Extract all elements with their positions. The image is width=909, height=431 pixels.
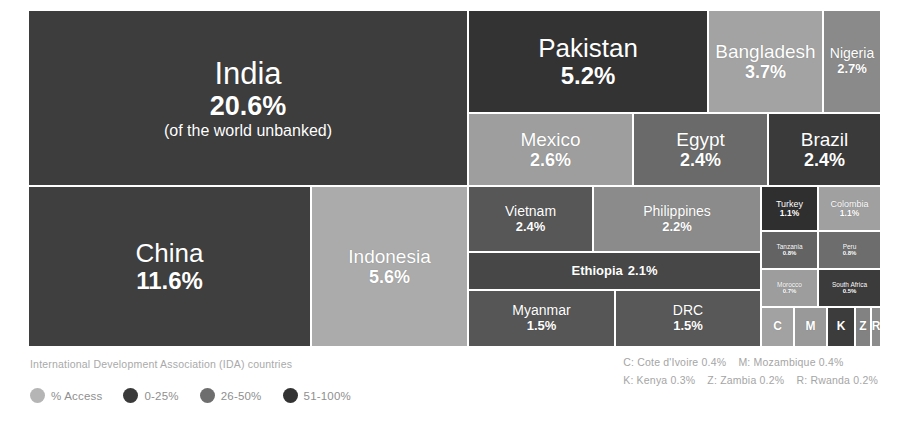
treemap-tile-india[interactable]: India 20.6% (of the world unbanked) (28, 10, 468, 186)
tile-value-philippines: 2.2% (662, 220, 692, 235)
treemap-tile-south-africa[interactable]: South Africa 0.5% (818, 269, 881, 307)
treemap-tile-colombia[interactable]: Colombia 1.1% (818, 186, 881, 231)
tile-value-peru: 0.8% (843, 250, 857, 257)
tile-label-cote-divoire: C (773, 320, 782, 333)
treemap-tile-rwanda[interactable]: R (871, 307, 881, 347)
treemap-tile-ethiopia[interactable]: Ethiopia 2.1% (468, 252, 761, 290)
tile-label-ethiopia: Ethiopia (572, 264, 623, 279)
treemap-tile-nigeria[interactable]: Nigeria 2.7% (823, 10, 881, 113)
legend-swatch-0-25-icon (123, 388, 138, 403)
tile-label-egypt: Egypt (676, 129, 725, 150)
legend-item-band-26-50[interactable]: 26-50% (200, 388, 262, 403)
tile-value-india: 20.6% (210, 91, 287, 121)
tile-label-india: India (214, 57, 281, 92)
ida-countries-note: International Development Association (I… (30, 358, 292, 370)
treemap-tile-peru[interactable]: Peru 0.8% (818, 231, 881, 269)
tile-value-myanmar: 1.5% (527, 319, 557, 334)
tile-sublabel-india: (of the world unbanked) (164, 122, 332, 140)
treemap-tile-zambia[interactable]: Z (855, 307, 871, 347)
treemap-tile-philippines[interactable]: Philippines 2.2% (593, 186, 761, 252)
footnote-cote-divoire: C: Cote d'Ivoire 0.4% (623, 356, 726, 368)
tile-value-indonesia: 5.6% (369, 267, 410, 287)
footnote-kenya: K: Kenya 0.3% (623, 374, 695, 386)
treemap-tile-cote-divoire[interactable]: C (761, 307, 794, 347)
treemap-tile-myanmar[interactable]: Myanmar 1.5% (468, 290, 615, 347)
tile-label-pakistan: Pakistan (538, 34, 638, 63)
tile-label-zambia: Z (859, 320, 866, 333)
tile-value-china: 11.6% (136, 268, 203, 295)
treemap-tile-tanzania[interactable]: Tanzania 0.8% (761, 231, 818, 269)
chart-legend: % Access 0-25% 26-50% 51-100% (30, 388, 365, 403)
tile-label-brazil: Brazil (801, 129, 849, 150)
legend-item-access[interactable]: % Access (30, 388, 102, 403)
tile-label-drc: DRC (673, 303, 703, 319)
tile-label-nigeria: Nigeria (830, 46, 874, 62)
tile-value-egypt: 2.4% (680, 150, 721, 170)
legend-swatch-51-100-icon (283, 388, 298, 403)
tile-value-south-africa: 0.5% (843, 288, 857, 295)
tile-value-tanzania: 0.8% (783, 250, 797, 257)
legend-item-band-51-100[interactable]: 51-100% (283, 388, 351, 403)
tile-label-philippines: Philippines (643, 204, 711, 220)
tile-label-rwanda: R (872, 320, 881, 333)
tile-label-indonesia: Indonesia (348, 246, 430, 267)
legend-swatch-access-icon (30, 388, 45, 403)
tile-label-myanmar: Myanmar (512, 303, 570, 319)
legend-item-band-0-25[interactable]: 0-25% (123, 388, 178, 403)
treemap-tile-morocco[interactable]: Morocco 0.7% (761, 269, 818, 307)
treemap-tile-mozambique[interactable]: M (794, 307, 827, 347)
tile-label-vietnam: Vietnam (505, 204, 556, 220)
legend-swatch-26-50-icon (200, 388, 215, 403)
treemap-tile-bangladesh[interactable]: Bangladesh 3.7% (708, 10, 823, 113)
footnote-line-2: K: Kenya 0.3% Z: Zambia 0.2% R: Rwanda 0… (623, 374, 887, 386)
treemap-figure: India 20.6% (of the world unbanked) Paki… (0, 0, 909, 431)
tile-value-vietnam: 2.4% (516, 220, 546, 235)
footnote-line-1: C: Cote d'Ivoire 0.4% M: Mozambique 0.4% (623, 356, 887, 368)
legend-label-0-25: 0-25% (144, 390, 178, 402)
tile-value-colombia: 1.1% (840, 209, 859, 219)
tile-value-ethiopia: 2.1% (628, 264, 658, 279)
treemap-tile-egypt[interactable]: Egypt 2.4% (633, 113, 768, 186)
footnote-mozambique: M: Mozambique 0.4% (738, 356, 843, 368)
treemap-plot-area: India 20.6% (of the world unbanked) Paki… (28, 10, 881, 347)
treemap-tile-drc[interactable]: DRC 1.5% (615, 290, 761, 347)
tile-value-turkey: 1.1% (780, 209, 799, 219)
legend-label-51-100: 51-100% (304, 390, 351, 402)
tile-value-pakistan: 5.2% (561, 63, 616, 90)
tile-label-mexico: Mexico (520, 129, 580, 150)
legend-label-access: % Access (51, 390, 102, 402)
treemap-tile-vietnam[interactable]: Vietnam 2.4% (468, 186, 593, 252)
tile-value-morocco: 0.7% (783, 288, 797, 295)
tile-value-nigeria: 2.7% (837, 62, 867, 77)
treemap-tile-brazil[interactable]: Brazil 2.4% (768, 113, 881, 186)
tile-value-brazil: 2.4% (804, 150, 845, 170)
footnote-zambia: Z: Zambia 0.2% (707, 374, 784, 386)
tile-label-bangladesh: Bangladesh (715, 41, 815, 62)
tile-value-drc: 1.5% (673, 319, 703, 334)
treemap-tile-kenya[interactable]: K (827, 307, 855, 347)
abbreviation-footnotes: C: Cote d'Ivoire 0.4% M: Mozambique 0.4%… (623, 356, 887, 392)
treemap-tile-indonesia[interactable]: Indonesia 5.6% (311, 186, 468, 347)
treemap-tile-turkey[interactable]: Turkey 1.1% (761, 186, 818, 231)
legend-label-26-50: 26-50% (221, 390, 262, 402)
tile-label-mozambique: M (806, 320, 816, 333)
treemap-tile-pakistan[interactable]: Pakistan 5.2% (468, 10, 708, 113)
tile-value-bangladesh: 3.7% (745, 62, 786, 82)
treemap-tile-china[interactable]: China 11.6% (28, 186, 311, 347)
tile-value-mexico: 2.6% (530, 150, 571, 170)
treemap-tile-mexico[interactable]: Mexico 2.6% (468, 113, 633, 186)
footnote-rwanda: R: Rwanda 0.2% (796, 374, 878, 386)
tile-label-china: China (136, 239, 204, 268)
tile-label-kenya: K (837, 320, 846, 333)
